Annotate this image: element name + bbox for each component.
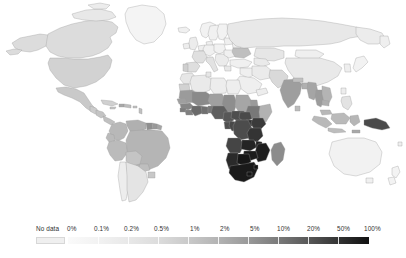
country-guyana xyxy=(146,123,153,130)
country-russia xyxy=(227,18,366,48)
legend-tick-0.5% xyxy=(158,237,159,244)
legend-tick-10% xyxy=(278,237,279,244)
country-canada xyxy=(46,20,118,58)
country-alaska xyxy=(12,34,52,52)
country-taiwan xyxy=(341,88,346,94)
country-finland xyxy=(217,24,228,40)
country-indonesia-sulawesi xyxy=(350,115,360,126)
country-india xyxy=(280,79,302,108)
country-senegal-gambia xyxy=(177,98,187,104)
legend-labels: No data 0% 0.1% 0.2% 0.5% 1% 2% 5% 10% 2… xyxy=(0,224,406,235)
legend-label-6: 5% xyxy=(250,224,259,233)
legend-band-0.1% xyxy=(98,237,129,244)
country-ghana xyxy=(201,106,208,114)
legend-band-20% xyxy=(308,237,339,244)
country-western-sahara xyxy=(179,84,190,91)
country-turkey xyxy=(230,59,252,68)
country-suriname xyxy=(152,123,157,129)
country-canada-arctic-islands xyxy=(72,9,116,21)
country-portugal xyxy=(183,64,188,72)
legend-label-4: 1% xyxy=(190,224,199,233)
country-cuba xyxy=(101,100,118,106)
world-choropleth-figure: No data 0% 0.1% 0.2% 0.5% 1% 2% 5% 10% 2… xyxy=(0,0,406,258)
legend-band-0.2% xyxy=(128,237,159,244)
country-kamchatka xyxy=(380,36,390,48)
country-japan xyxy=(353,56,368,72)
legend-label-5: 2% xyxy=(220,224,229,233)
legend-label-10: 100% xyxy=(364,224,381,233)
legend-label-no-data: No data xyxy=(36,224,59,233)
country-canada-island-north xyxy=(88,3,110,9)
country-new-zealand-south xyxy=(388,177,396,185)
legend-label-1: 0.1% xyxy=(94,224,109,233)
legend-label-8: 20% xyxy=(307,224,320,233)
country-timor xyxy=(352,130,360,133)
country-lesotho xyxy=(247,172,252,176)
country-indonesia-java xyxy=(328,128,346,133)
country-puerto-rico xyxy=(133,106,137,108)
country-greece xyxy=(224,66,231,71)
country-philippines xyxy=(341,96,352,110)
map-area xyxy=(0,0,406,214)
legend-label-7: 10% xyxy=(277,224,290,233)
legend-tick-1% xyxy=(188,237,189,244)
country-eritrea-djibouti xyxy=(250,100,258,106)
country-iceland xyxy=(178,27,190,33)
country-dominican-republic xyxy=(124,104,131,108)
country-indonesia-borneo xyxy=(331,113,350,124)
country-greenland xyxy=(125,5,166,44)
country-nepal-bhutan xyxy=(293,78,303,82)
country-madagascar xyxy=(271,142,285,166)
legend-label-0: 0% xyxy=(67,224,76,233)
country-ukraine xyxy=(232,48,251,58)
country-malaysia xyxy=(320,110,332,115)
country-uruguay xyxy=(148,172,155,178)
country-korea xyxy=(344,64,351,72)
country-iran xyxy=(252,66,272,80)
country-lesser-antilles xyxy=(139,108,142,114)
country-new-zealand xyxy=(392,166,400,178)
country-tunisia xyxy=(206,72,211,77)
country-france xyxy=(192,51,207,63)
country-australia xyxy=(329,138,382,176)
country-fiji xyxy=(398,142,402,146)
legend-band-0% xyxy=(68,237,99,244)
country-haiti xyxy=(119,104,124,107)
legend-tick-2% xyxy=(218,237,219,244)
legend-no-data-swatch xyxy=(36,237,65,244)
country-eswatini xyxy=(254,165,258,169)
legend-tick-5% xyxy=(248,237,249,244)
country-libya xyxy=(210,78,228,94)
legend-tick-20% xyxy=(308,237,309,244)
country-ireland xyxy=(183,43,190,49)
legend-tick-0.2% xyxy=(128,237,129,244)
legend-tick-0.1% xyxy=(98,237,99,244)
country-zambia xyxy=(241,140,257,151)
legend-band-2% xyxy=(218,237,249,244)
country-indonesia-sumatra xyxy=(312,116,332,128)
country-sri-lanka xyxy=(295,106,300,111)
legend-band-1% xyxy=(188,237,219,244)
country-peru xyxy=(107,140,128,161)
country-papua-new-guinea xyxy=(364,118,390,130)
legend-band-10% xyxy=(278,237,309,244)
world-map-svg xyxy=(0,0,406,214)
country-united-kingdom xyxy=(189,37,198,50)
country-french-guiana xyxy=(157,124,162,130)
legend-label-9: 50% xyxy=(337,224,350,233)
legend-band-50% xyxy=(338,237,369,244)
legend-band-5% xyxy=(248,237,279,244)
legend-label-3: 0.5% xyxy=(154,224,169,233)
country-jamaica xyxy=(110,107,116,109)
legend-label-2: 0.2% xyxy=(124,224,139,233)
country-tasmania xyxy=(366,178,373,183)
country-aleutians xyxy=(6,49,22,55)
country-egypt xyxy=(226,80,241,94)
country-united-states xyxy=(48,55,112,88)
country-cambodia xyxy=(322,100,329,106)
legend-tick-50% xyxy=(338,237,339,244)
legend: No data 0% 0.1% 0.2% 0.5% 1% 2% 5% 10% 2… xyxy=(0,214,406,258)
legend-band-0.5% xyxy=(158,237,189,244)
legend-gradient-bar xyxy=(68,237,368,244)
